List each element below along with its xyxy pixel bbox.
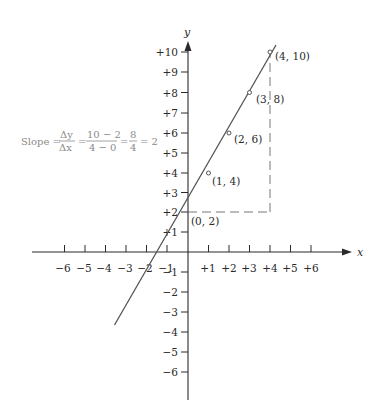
svg-text:Δy: Δy <box>60 129 73 140</box>
svg-text:−5: −5 <box>76 262 91 274</box>
svg-text:10 − 2: 10 − 2 <box>87 129 121 140</box>
svg-text:+6: +6 <box>163 127 179 139</box>
y-axis-label: y <box>183 26 191 39</box>
svg-text:+8: +8 <box>163 87 178 99</box>
svg-text:−4: −4 <box>96 262 112 274</box>
x-axis-label: x <box>357 246 364 259</box>
svg-text:=: = <box>120 136 128 147</box>
svg-text:4: 4 <box>130 142 136 153</box>
axes <box>32 46 347 400</box>
slope-diagram: x y −6 −5 −4 −3 −2 −1 +1 +2 +3 +4 +5 +6 <box>0 0 373 415</box>
svg-text:+7: +7 <box>163 107 178 119</box>
svg-text:−6: −6 <box>163 366 179 378</box>
point-4-10 <box>268 50 272 54</box>
label-3-8: (3, 8) <box>256 93 284 105</box>
svg-text:+3: +3 <box>241 262 256 274</box>
svg-text:−6: −6 <box>55 262 71 274</box>
svg-text:8: 8 <box>130 129 136 140</box>
svg-text:−1: −1 <box>163 266 178 278</box>
svg-text:−5: −5 <box>163 346 178 358</box>
x-axis-arrow-icon <box>342 249 352 256</box>
svg-text:−2: −2 <box>163 286 178 298</box>
point-1-4 <box>207 171 211 175</box>
line-y-equals-2x-plus-2 <box>115 45 277 325</box>
svg-text:+4: +4 <box>262 262 278 274</box>
svg-text:Δx: Δx <box>59 142 72 153</box>
label-2-6: (2, 6) <box>234 133 262 145</box>
svg-text:−3: −3 <box>117 262 132 274</box>
point-labels: (0, 2) (1, 4) (2, 6) (3, 8) (4, 10) <box>191 50 310 227</box>
point-3-8 <box>248 91 252 95</box>
svg-text:+2: +2 <box>221 262 236 274</box>
label-1-4: (1, 4) <box>212 175 240 187</box>
y-ticks <box>181 52 188 372</box>
slope-formula: Slope = Δy Δx = 10 − 2 4 − 0 = 8 4 = 2 <box>21 129 158 153</box>
y-tick-labels: +1 +2 +3 +4 +5 +6 +7 +8 +9 +10 −1 −2 −3 … <box>156 46 178 378</box>
svg-text:=: = <box>78 136 86 147</box>
point-2-6 <box>227 131 231 135</box>
svg-text:+5: +5 <box>282 262 297 274</box>
svg-text:+2: +2 <box>163 206 178 218</box>
y-axis-arrow-icon <box>185 41 192 51</box>
svg-text:= 2: = 2 <box>140 136 158 147</box>
label-4-10: (4, 10) <box>275 50 310 62</box>
svg-text:+6: +6 <box>303 262 319 274</box>
svg-text:Slope =: Slope = <box>21 136 61 147</box>
svg-text:+1: +1 <box>200 262 215 274</box>
svg-text:+3: +3 <box>163 187 178 199</box>
svg-text:−4: −4 <box>163 326 179 338</box>
svg-text:−3: −3 <box>163 306 178 318</box>
label-0-2: (0, 2) <box>191 215 219 227</box>
svg-text:4 − 0: 4 − 0 <box>89 142 116 153</box>
svg-text:+5: +5 <box>163 147 178 159</box>
svg-text:+10: +10 <box>156 46 178 58</box>
svg-text:+9: +9 <box>163 66 178 78</box>
svg-text:+4: +4 <box>163 167 179 179</box>
